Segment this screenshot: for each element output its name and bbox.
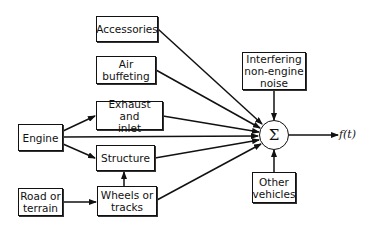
- interfering-noise-box: Interfering non-engine noise: [242, 52, 306, 90]
- structure-box: Structure: [96, 145, 155, 171]
- arrow-wheels-to-sum: [157, 144, 261, 200]
- engine-label: Engine: [23, 132, 59, 144]
- air-buffeting-label: Air buffeting: [102, 58, 149, 82]
- exhaust-inlet-box: Exhaust and inlet: [96, 101, 163, 130]
- interfering-noise-label: Interfering non-engine noise: [244, 53, 303, 89]
- arrow-engine-to-sum: [63, 136, 258, 137]
- accessories-box: Accessories: [96, 16, 158, 42]
- wheels-tracks-label: Wheels or tracks: [101, 189, 153, 213]
- road-terrain-label: Road or terrain: [20, 190, 60, 214]
- other-vehicles-label: Other vehicles: [253, 176, 296, 200]
- engine-box: Engine: [18, 124, 63, 151]
- road-terrain-box: Road or terrain: [18, 188, 63, 216]
- summation-node: Σ: [259, 120, 289, 150]
- air-buffeting-box: Air buffeting: [96, 56, 156, 84]
- arrow-structure-to-sum: [155, 140, 259, 158]
- accessories-label: Accessories: [96, 23, 158, 35]
- arrow-exhaust-to-sum: [163, 116, 259, 132]
- output-signal-label: f(t): [339, 128, 356, 141]
- structure-label: Structure: [101, 152, 150, 164]
- arrow-engine-to-exhaust: [63, 116, 95, 131]
- sigma-symbol: Σ: [269, 126, 280, 144]
- arrow-engine-to-structure: [63, 144, 95, 158]
- exhaust-inlet-label: Exhaust and inlet: [97, 98, 162, 134]
- wheels-tracks-box: Wheels or tracks: [97, 186, 157, 216]
- other-vehicles-box: Other vehicles: [252, 172, 296, 203]
